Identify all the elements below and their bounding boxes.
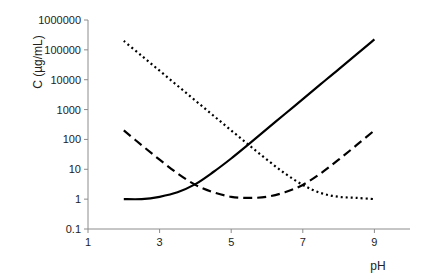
- plot-area: [124, 39, 375, 199]
- y-axis: 0.11101001000100001000001000000: [38, 14, 88, 235]
- y-tick-label: 0.1: [66, 223, 81, 235]
- y-tick-label: 10: [69, 163, 81, 175]
- series-line-solid: [124, 39, 375, 199]
- y-tick-label: 1000000: [38, 14, 81, 26]
- chart: 0.11101001000100001000001000000 13579 C …: [0, 0, 426, 278]
- y-tick-label: 100: [63, 133, 81, 145]
- x-axis-title: pH: [370, 259, 385, 273]
- y-tick-label: 100000: [44, 44, 81, 56]
- x-tick-label: 5: [228, 236, 234, 248]
- y-tick-label: 10000: [50, 74, 81, 86]
- series-line-dotted: [124, 41, 375, 199]
- series-line-dashed: [124, 130, 375, 198]
- x-axis: 13579: [85, 229, 410, 248]
- x-tick-label: 3: [157, 236, 163, 248]
- x-tick-label: 7: [300, 236, 306, 248]
- y-tick-label: 1: [75, 193, 81, 205]
- y-tick-label: 1000: [57, 104, 81, 116]
- x-tick-label: 1: [85, 236, 91, 248]
- y-axis-title: C (µg/mL): [31, 35, 45, 89]
- x-tick-label: 9: [371, 236, 377, 248]
